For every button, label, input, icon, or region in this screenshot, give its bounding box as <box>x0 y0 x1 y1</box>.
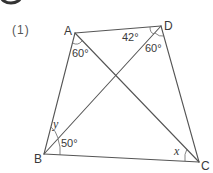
quadrilateral-diagram <box>0 0 213 173</box>
vertex-label-A: A <box>64 25 72 37</box>
vertex-label-C: C <box>201 160 210 172</box>
problem-number: (1) <box>12 24 30 36</box>
diagonal-BD <box>44 26 161 154</box>
angle-arc-D-left <box>150 27 154 34</box>
angle-arc-A <box>73 41 83 44</box>
angle-label-D-right: 60° <box>145 43 162 54</box>
angle-label-B-upper: y <box>53 118 58 130</box>
angle-label-A: 60° <box>72 48 89 59</box>
angle-arc-B-lower <box>58 139 60 155</box>
angle-arc-C <box>185 149 187 161</box>
angle-label-B-lower: 50° <box>61 138 78 149</box>
side-AB <box>44 33 75 154</box>
geometry-figure: (1) A D B C 60° 42° 60° y 50° x <box>0 0 213 173</box>
problem-badge-icon <box>1 0 21 3</box>
vertex-label-D: D <box>164 20 173 32</box>
side-AD <box>75 26 161 33</box>
angle-label-D-left: 42° <box>122 32 139 43</box>
vertex-label-B: B <box>34 153 42 165</box>
angle-label-C: x <box>174 145 179 157</box>
